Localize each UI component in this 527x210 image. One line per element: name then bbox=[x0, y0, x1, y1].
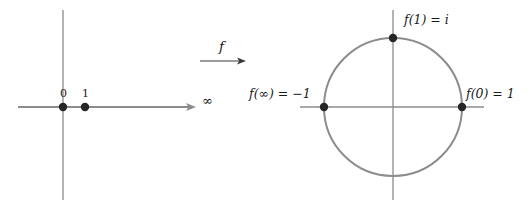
codomain-point-left bbox=[320, 103, 328, 111]
domain-point-zero bbox=[59, 103, 67, 111]
mapping-function-label: f bbox=[219, 40, 224, 54]
domain-point-one bbox=[81, 103, 89, 111]
codomain-label-left: f(∞) = −1 bbox=[249, 88, 311, 101]
domain-diagram bbox=[18, 10, 196, 200]
codomain-point-right bbox=[458, 103, 466, 111]
domain-label-infinity: ∞ bbox=[202, 94, 213, 107]
codomain-point-top bbox=[389, 34, 397, 42]
conformal-map-figure: 0 1 ∞ f f(1) = i f(∞) = −1 f(0) = 1 bbox=[0, 0, 527, 210]
domain-label-zero: 0 bbox=[60, 88, 67, 99]
figure-canvas bbox=[0, 0, 527, 210]
codomain-label-top: f(1) = i bbox=[404, 14, 449, 27]
codomain-label-right: f(0) = 1 bbox=[466, 88, 515, 101]
codomain-diagram bbox=[300, 10, 484, 200]
mapping-arrow-group bbox=[200, 58, 246, 65]
domain-label-one: 1 bbox=[82, 88, 89, 99]
